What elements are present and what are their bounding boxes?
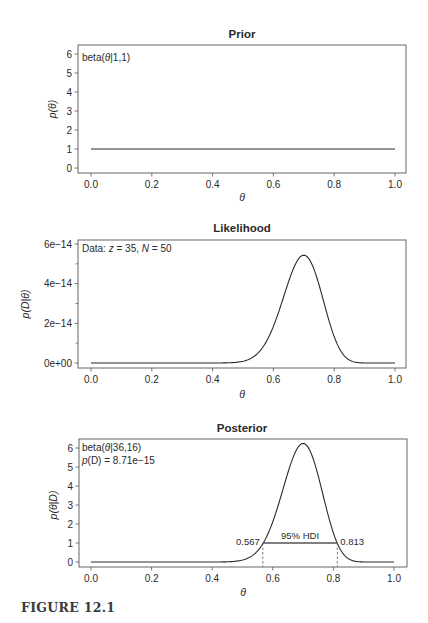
posterior-annotation-distribution: beta(θ|36,16) (82, 442, 141, 453)
prior-x-axis-label: θ (239, 191, 245, 203)
y-tick-label: 4 (66, 87, 72, 98)
posterior-panel: Posterior 0123456 0.00.20.40.60.81.0 bet… (47, 422, 407, 598)
y-tick-label: 1 (66, 144, 72, 155)
y-tick-label: 4 (67, 481, 73, 492)
y-tick-label: 3 (67, 500, 73, 511)
prior-title: Prior (229, 28, 256, 40)
x-tick-label: 0.4 (205, 573, 219, 584)
x-tick-label: 1.0 (388, 374, 402, 385)
posterior-title: Posterior (217, 422, 268, 434)
likelihood-x-axis: 0.00.20.40.60.81.0 (84, 368, 402, 385)
x-tick-label: 0.0 (84, 573, 98, 584)
x-tick-label: 0.8 (327, 374, 341, 385)
x-tick-label: 1.0 (388, 179, 402, 190)
y-tick-label: 5 (67, 462, 73, 473)
y-tick-label: 5 (66, 68, 72, 79)
x-tick-label: 0.0 (84, 374, 98, 385)
prior-y-axis: 0123456 (66, 49, 78, 174)
figure-canvas: Prior 0123456 0.00.20.40.60.81.0 beta(θ|… (0, 0, 428, 623)
x-tick-label: 0.2 (145, 179, 159, 190)
posterior-x-axis: 0.00.20.40.60.81.0 (84, 567, 401, 584)
prior-annotation: beta(θ|1,1) (82, 52, 130, 63)
likelihood-panel: Likelihood 0e+002e−144e−146e−14 0.00.20.… (19, 222, 406, 400)
x-tick-label: 0.6 (266, 179, 280, 190)
likelihood-title: Likelihood (213, 222, 271, 234)
y-tick-label: 3 (66, 106, 72, 117)
x-tick-label: 0.2 (145, 573, 159, 584)
x-tick-label: 0.4 (206, 374, 220, 385)
y-tick-label: 4e−14 (44, 278, 73, 289)
x-tick-label: 0.6 (266, 573, 280, 584)
y-tick-label: 6 (67, 443, 73, 454)
likelihood-curve (91, 255, 395, 363)
prior-panel: Prior 0123456 0.00.20.40.60.81.0 beta(θ|… (46, 28, 406, 203)
x-tick-label: 1.0 (387, 573, 401, 584)
x-tick-label: 0.8 (327, 179, 341, 190)
likelihood-plot-frame (78, 240, 406, 368)
x-tick-label: 0.0 (84, 179, 98, 190)
x-tick-label: 0.6 (266, 374, 280, 385)
prior-y-axis-label: p(θ) (46, 100, 58, 120)
posterior-y-axis-label: p(θ|D) (47, 491, 59, 521)
y-tick-label: 0 (67, 557, 73, 568)
prior-plot-frame (78, 45, 406, 173)
y-tick-label: 0 (66, 163, 72, 174)
y-tick-label: 2 (67, 519, 73, 530)
y-tick-label: 6e−14 (44, 239, 73, 250)
posterior-annotation-evidence: p(D) = 8.71e−15 (81, 455, 155, 466)
y-tick-label: 1 (67, 538, 73, 549)
likelihood-y-axis: 0e+002e−144e−146e−14 (44, 239, 78, 369)
likelihood-x-axis-label: θ (239, 388, 245, 400)
y-tick-label: 6 (66, 49, 72, 60)
posterior-x-axis-label: θ (240, 586, 246, 598)
x-tick-label: 0.2 (145, 374, 159, 385)
figure-caption: FIGURE 12.1 (21, 600, 115, 615)
likelihood-annotation: Data: z = 35, N = 50 (82, 243, 172, 254)
posterior-y-axis: 0123456 (67, 443, 79, 568)
prior-x-axis: 0.00.20.40.60.81.0 (84, 173, 402, 190)
hdi-high-label: 0.813 (340, 536, 364, 547)
y-tick-label: 2 (66, 125, 72, 136)
y-tick-label: 0e+00 (44, 358, 73, 369)
x-tick-label: 0.4 (206, 179, 220, 190)
likelihood-y-axis-label: p(D|θ) (19, 290, 31, 320)
hdi-label: 95% HDI (281, 530, 319, 541)
hdi-low-label: 0.567 (236, 536, 260, 547)
y-tick-label: 2e−14 (44, 318, 73, 329)
x-tick-label: 0.8 (326, 573, 340, 584)
